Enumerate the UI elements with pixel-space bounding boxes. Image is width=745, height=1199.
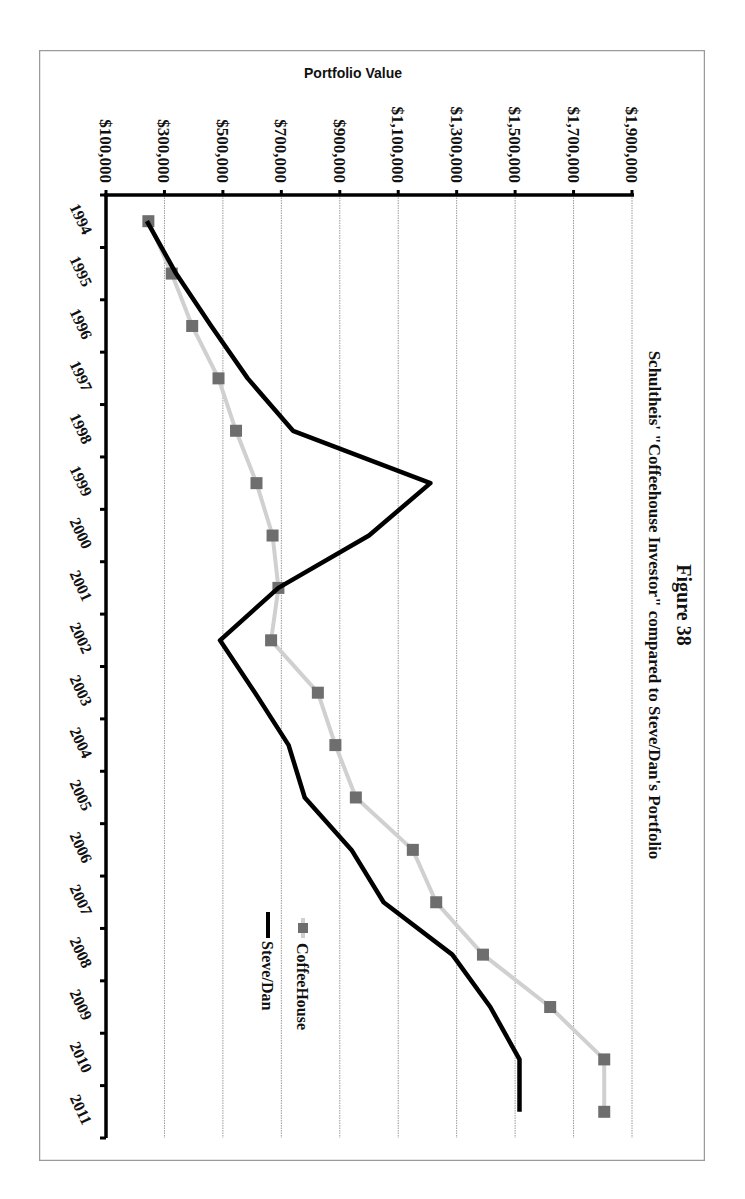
value-tick-label: $500,000 <box>213 119 232 183</box>
square-marker-icon <box>312 687 324 699</box>
legend-label-coffeehouse: CoffeeHouse <box>294 943 311 1030</box>
value-tick-label: $1,100,000 <box>388 107 407 184</box>
line-chart: $100,000$300,000$500,000$700,000$900,000… <box>39 50 705 1161</box>
figure-subtitle: Schultheis' "Coffeehouse Investor" compa… <box>645 351 664 860</box>
y-axis-title: Portfolio Value <box>304 65 402 81</box>
square-marker-icon <box>477 949 489 961</box>
square-marker-icon <box>250 477 262 489</box>
square-marker-icon <box>430 896 442 908</box>
value-tick-label: $900,000 <box>330 119 349 183</box>
square-marker-icon <box>186 320 198 332</box>
square-marker-icon <box>230 425 242 437</box>
square-marker-icon <box>598 1106 610 1118</box>
square-marker-icon <box>213 372 225 384</box>
figure-title: Figure 38 <box>672 564 695 645</box>
square-marker-icon <box>544 1001 556 1013</box>
square-marker-icon <box>265 634 277 646</box>
square-marker-icon <box>329 739 341 751</box>
figure-frame: $100,000$300,000$500,000$700,000$900,000… <box>39 50 705 1161</box>
value-tick-label: $700,000 <box>271 119 290 183</box>
value-tick-label: $1,700,000 <box>564 107 583 184</box>
square-marker-icon <box>598 1053 610 1065</box>
square-marker-icon <box>407 844 419 856</box>
value-tick-label: $1,500,000 <box>505 107 524 184</box>
rotated-chart: $100,000$300,000$500,000$700,000$900,000… <box>39 50 705 1161</box>
value-tick-label: $300,000 <box>154 119 173 183</box>
value-tick-label: $1,300,000 <box>447 107 466 184</box>
legend-square-marker-icon <box>298 923 308 933</box>
legend-label-steve-dan: Steve/Dan <box>259 941 276 1010</box>
square-marker-icon <box>267 530 279 542</box>
value-tick-label: $100,000 <box>96 119 115 183</box>
chart-border <box>40 51 705 1161</box>
square-marker-icon <box>350 791 362 803</box>
value-tick-label: $1,900,000 <box>622 107 641 184</box>
